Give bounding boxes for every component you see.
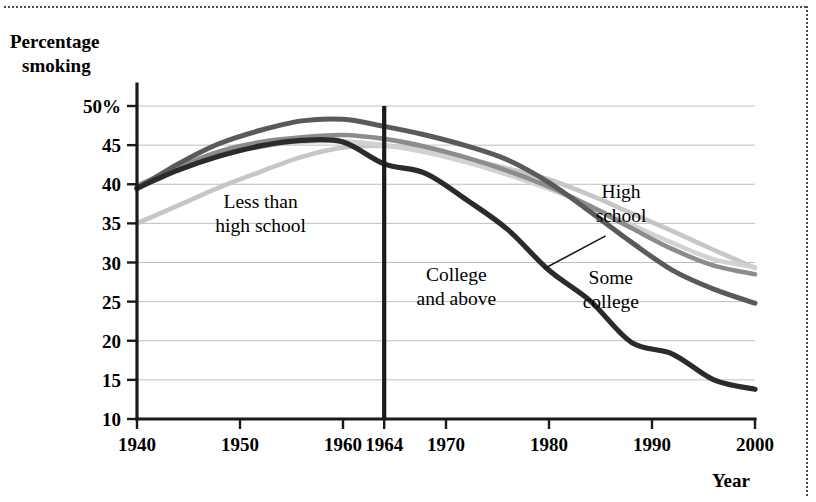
y-tick-label-30: 30: [102, 253, 121, 274]
y-tick-label-45: 45: [102, 135, 121, 156]
series-label-college-and-above-line2: and above: [417, 288, 497, 309]
series-label-some-college-line1: Some: [589, 267, 633, 288]
y-tick-label-50: 50%: [83, 96, 121, 117]
line-chart-canvas: 101520253035404550%194019501960196419701…: [0, 0, 816, 502]
x-tick-label-1964: 1964: [365, 434, 404, 455]
series-label-high-school-line2: school: [596, 205, 647, 226]
y-axis-title-line1: Percentage: [10, 31, 99, 52]
chart-figure: 101520253035404550%194019501960196419701…: [0, 0, 816, 502]
x-tick-label-1970: 1970: [427, 434, 465, 455]
series-label-some-college-line2: college: [583, 291, 639, 312]
y-tick-label-20: 20: [102, 331, 121, 352]
x-tick-label-1980: 1980: [530, 434, 568, 455]
x-tick-label-1940: 1940: [118, 434, 156, 455]
x-tick-label-1960: 1960: [324, 434, 362, 455]
x-axis-title: Year: [712, 470, 751, 491]
series-label-college-and-above-line1: College: [426, 264, 487, 285]
y-tick-label-25: 25: [102, 292, 121, 313]
series-label-less-than-high-school-line1: Less than: [223, 191, 297, 212]
x-tick-label-1950: 1950: [221, 434, 259, 455]
x-tick-label-2000: 2000: [736, 434, 774, 455]
y-tick-label-15: 15: [102, 370, 121, 391]
x-tick-label-1990: 1990: [633, 434, 671, 455]
axes-group: [137, 84, 755, 419]
series-lines-group: [137, 119, 755, 389]
y-tick-label-40: 40: [102, 174, 121, 195]
y-tick-label-35: 35: [102, 213, 121, 234]
y-tick-label-10: 10: [102, 409, 121, 430]
leader-line-high-school: [544, 236, 606, 269]
series-label-high-school-line1: High: [602, 181, 641, 202]
y-axis-title-line2: smoking: [22, 55, 91, 76]
series-label-less-than-high-school-line2: high school: [215, 215, 306, 236]
